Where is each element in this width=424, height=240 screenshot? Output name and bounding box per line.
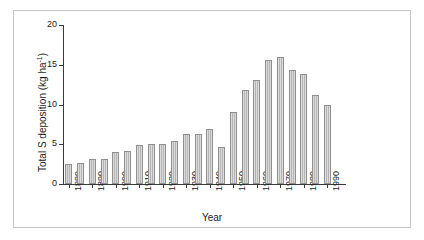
y-tick-mark	[59, 105, 63, 106]
y-tick-label: 0	[52, 177, 57, 190]
x-tick-mark-1880	[69, 184, 70, 188]
y-axis-title-exponent: -1	[36, 56, 43, 62]
x-tick-mark-1980	[304, 184, 305, 188]
x-tick-mark-1940	[210, 184, 211, 188]
bar-1890	[89, 159, 96, 184]
bar-1920	[159, 144, 166, 184]
bar-1905	[124, 151, 131, 184]
y-axis-title: Total S deposition (kg ha-1)	[34, 53, 49, 172]
bar-1950	[230, 112, 237, 184]
bar-1915	[148, 144, 155, 184]
x-tick-mark-1910	[139, 184, 140, 188]
x-tick-mark-1900	[116, 184, 117, 188]
bar-1970	[277, 57, 284, 184]
bar-1935	[195, 134, 202, 184]
bar-1910	[136, 145, 143, 184]
bar-1885	[77, 163, 84, 184]
plot-area: 05101520 1880189019001910192019301940195…	[63, 25, 345, 184]
y-axis-title-close: )	[37, 53, 48, 56]
bar-1975	[289, 70, 296, 184]
y-tick-label: 10	[47, 98, 57, 111]
x-tick-mark-1920	[163, 184, 164, 188]
bar-1980	[300, 74, 307, 184]
bar-1955	[242, 90, 249, 184]
y-axis-title-text: Total S deposition (kg ha	[37, 62, 48, 172]
bar-1895	[101, 159, 108, 184]
y-axis-line	[63, 25, 64, 184]
figure: Total S deposition (kg ha-1) 05101520 18…	[0, 0, 424, 240]
x-tick-mark-1950	[233, 184, 234, 188]
y-tick-label: 5	[52, 137, 57, 150]
x-tick-mark-1970	[280, 184, 281, 188]
y-tick-label: 20	[47, 18, 57, 31]
bar-1960	[253, 80, 260, 184]
y-tick-mark	[59, 184, 63, 185]
x-tick-mark-1960	[257, 184, 258, 188]
y-tick-mark	[59, 25, 63, 26]
bar-1985	[312, 95, 319, 184]
bar-1880	[65, 164, 72, 184]
bar-1925	[171, 141, 178, 184]
y-tick-mark	[59, 65, 63, 66]
bar-1930	[183, 134, 190, 184]
bar-1940	[206, 129, 213, 184]
x-tick-mark-1930	[186, 184, 187, 188]
x-tick-mark-1990	[327, 184, 328, 188]
x-axis-title: Year	[0, 212, 424, 223]
bar-1990	[324, 105, 331, 185]
x-tick-label-1990: 1990	[331, 171, 341, 191]
y-tick-label: 15	[47, 58, 57, 71]
bar-1965	[265, 60, 272, 184]
x-tick-mark-1890	[92, 184, 93, 188]
y-tick-mark	[59, 144, 63, 145]
bar-1900	[112, 152, 119, 184]
bar-1945	[218, 147, 225, 184]
